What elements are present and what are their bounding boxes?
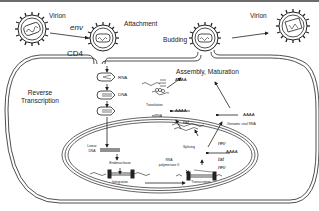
label-virion-right: Virion: [250, 13, 267, 20]
label-splicing: Splicing: [183, 146, 195, 149]
label-transcription-rt: Transcription: [21, 98, 59, 105]
translation-ribosomes: [142, 80, 169, 95]
label-dna: DNA: [118, 93, 127, 97]
capsids: [97, 73, 115, 115]
label-attachment: Attachment: [124, 21, 157, 28]
label-tat-2: tat: [218, 157, 224, 162]
label-polymerase-ii: polymerase II: [159, 164, 179, 167]
label-rev-1: rev: [218, 141, 226, 146]
label-env: env: [70, 24, 83, 32]
label-mrna: mRNA: [152, 115, 162, 118]
label-cd4: CD4: [67, 50, 83, 58]
label-reverse: Reverse: [28, 90, 53, 97]
label-endonuclease: Endonuclease: [109, 162, 131, 165]
label-assembly-maturation: Assembly, Maturation: [176, 69, 239, 76]
label-tat-1: tat: [183, 120, 189, 125]
label-integration: Integration: [112, 181, 128, 184]
cell-membrane: [5, 50, 319, 203]
label-virion-left: Virion: [49, 13, 66, 20]
label-aaaa-1: AAAA: [175, 78, 187, 82]
label-translation: Translation: [146, 104, 163, 107]
virion-left: [15, 12, 49, 46]
label-rna-polymerase: RNA: [165, 159, 172, 162]
label-linear: Linear: [87, 145, 96, 148]
label-transcription: Transcription: [191, 181, 210, 184]
label-rev-2: rev: [218, 165, 226, 170]
label-genomic-viral-rna: Genomic viral RNA: [227, 123, 256, 126]
label-rna: RNA: [118, 76, 127, 80]
linear-dna: [100, 149, 120, 151]
virion-budding: [189, 22, 221, 51]
label-aaaa-4: AAAA: [226, 150, 238, 154]
label-budding: Budding: [163, 37, 187, 44]
nucleus: [62, 117, 258, 193]
virion-right: [276, 9, 310, 43]
label-aaaa-2: AAAA: [175, 109, 187, 113]
label-aaaa-3: AAAA: [243, 113, 255, 117]
transcribed-provirus: [176, 170, 222, 180]
virion-attaching: [87, 22, 119, 51]
label-linear-dna: DNA: [88, 150, 95, 153]
